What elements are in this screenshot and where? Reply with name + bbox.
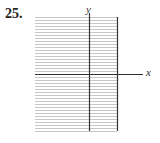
coordinate-grid (0, 0, 160, 143)
